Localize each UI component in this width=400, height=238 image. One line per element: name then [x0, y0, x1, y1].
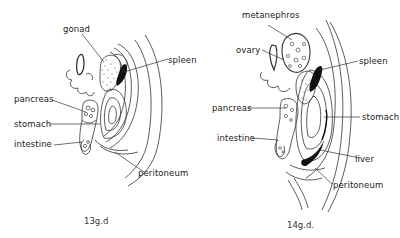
- label-intestine-14gd: intestine: [217, 134, 255, 143]
- label-ovary: ovary: [236, 46, 260, 55]
- label-peritoneum-14gd: peritoneum: [333, 181, 383, 190]
- label-pancreas-14gd: pancreas: [212, 104, 252, 113]
- label-gonad: gonad: [63, 25, 90, 34]
- label-liver: liver: [355, 155, 374, 164]
- caption-14gd: 14g.d.: [287, 221, 314, 230]
- label-peritoneum-13gd: peritoneum: [138, 169, 188, 178]
- label-spleen-14gd: spleen: [359, 57, 388, 66]
- label-pancreas-13gd: pancreas: [14, 95, 54, 104]
- caption-13gd: 13g.d: [84, 217, 108, 226]
- label-spleen-13gd: spleen: [168, 56, 197, 65]
- embryo-anatomy-diagram: gonad spleen pancreas stomach intestine …: [0, 0, 400, 238]
- label-intestine-13gd: intestine: [14, 140, 52, 149]
- label-stomach-14gd: stomach: [362, 113, 399, 122]
- label-stomach-13gd: stomach: [14, 120, 51, 129]
- label-metanephros: metanephros: [242, 11, 300, 20]
- figure-13gd-drawing: [0, 0, 400, 238]
